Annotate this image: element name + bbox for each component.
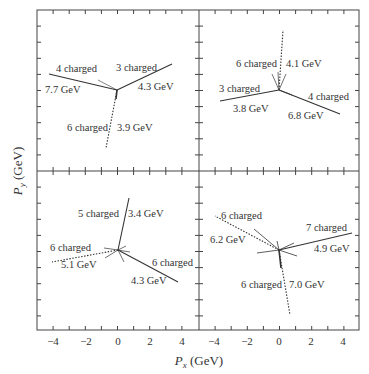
x-tick-labels: −4 −2 0 2 4 −4 −2 0 2 4 (47, 335, 346, 347)
x-tick-label: 0 (276, 335, 282, 347)
x-tick-label: −4 (47, 335, 59, 347)
x-tick-label: 0 (115, 335, 121, 347)
jet-energy: 7.0 GeV (289, 279, 325, 290)
jet-energy: 5.1 GeV (61, 259, 97, 270)
jet-label: 6 charged (152, 257, 194, 268)
track-line (279, 74, 286, 90)
jet-label: 6 charged (50, 242, 92, 253)
jet-label: 6 charged (241, 279, 283, 290)
jet-energy: 4.1 GeV (286, 58, 322, 69)
track-line (98, 80, 117, 90)
jet-energy: 4.3 GeV (138, 81, 174, 92)
figure: 4 charged 7.7 GeV 3 charged 4.3 GeV 6 ch… (0, 0, 369, 374)
jet-label: 3 charged (219, 83, 261, 94)
x-tick-label: 4 (340, 335, 346, 347)
track-line (104, 248, 118, 250)
jet-energy: 4.3 GeV (131, 275, 167, 286)
jet-energy: 6.8 GeV (288, 110, 324, 121)
x-tick-label: 4 (179, 335, 185, 347)
track-line (254, 229, 279, 250)
x-axis-title: Px (GeV) (174, 353, 223, 370)
jet-line (118, 198, 129, 250)
jet-label: 4 charged (308, 91, 350, 102)
x-tick-label: −2 (80, 335, 92, 347)
x-tick-label: 2 (147, 335, 153, 347)
jet-label: 6 charged (221, 210, 263, 221)
y-axis-title: Py (GeV) (10, 147, 27, 196)
x-tick-label: −4 (208, 335, 220, 347)
jet-label: 6 charged (67, 122, 109, 133)
jet-energy: 7.7 GeV (45, 84, 81, 95)
jet-energy: 6.2 GeV (210, 234, 246, 245)
jet-label: 7 charged (306, 222, 348, 233)
jet-energy: 3.9 GeV (117, 122, 153, 133)
jet-label: 5 charged (78, 208, 120, 219)
track-line (257, 250, 279, 253)
jet-energy: 3.8 GeV (233, 103, 269, 114)
jet-line (279, 30, 283, 90)
jet-energy: 4.9 GeV (314, 243, 350, 254)
track-line (116, 90, 117, 99)
track-line (279, 250, 297, 256)
x-tick-label: −2 (241, 335, 253, 347)
jet-energy: 3.4 GeV (128, 208, 164, 219)
panel-bottom-left: 5 charged 3.4 GeV 6 charged 5.1 GeV 6 ch… (50, 198, 194, 286)
panel-top-left: 4 charged 7.7 GeV 3 charged 4.3 GeV 6 ch… (45, 62, 174, 148)
jet-label: 6 charged (236, 58, 278, 69)
jet-label: 3 charged (116, 62, 158, 73)
panel-top-right: 6 charged 4.1 GeV 3 charged 3.8 GeV 4 ch… (219, 30, 350, 121)
jet-label: 4 charged (56, 63, 98, 74)
track-line (279, 90, 292, 95)
x-tick-label: 2 (308, 335, 314, 347)
track-line (279, 250, 281, 268)
panel-bottom-right: 6 charged 6.2 GeV 7 charged 4.9 GeV 6 ch… (210, 210, 352, 315)
